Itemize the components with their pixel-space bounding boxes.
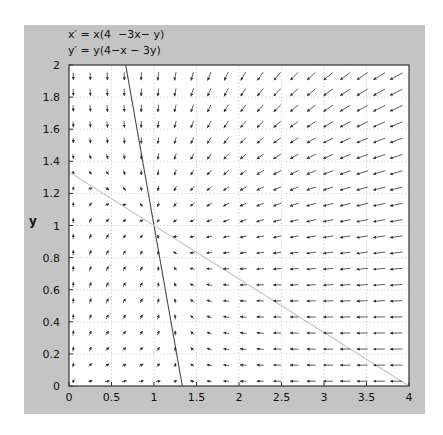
x-tick-label: 4: [406, 391, 413, 404]
y-tick-label: 1.4: [43, 155, 61, 168]
x-tick-label: 0: [66, 391, 73, 404]
y-tick-label: 0.6: [43, 284, 61, 297]
x-tick-label: 1: [151, 391, 158, 404]
direction-arrow: [107, 105, 108, 112]
direction-arrow: [158, 267, 159, 271]
y-tick-label: 0: [53, 380, 60, 393]
y-tick-label: 0.2: [43, 348, 61, 361]
x-tick-label: 3: [321, 391, 328, 404]
y-tick-label: 1.2: [43, 187, 61, 200]
direction-arrow: [73, 202, 74, 207]
direction-arrow: [257, 269, 264, 270]
direction-arrow: [90, 105, 91, 111]
y-tick-label: 0.4: [43, 316, 61, 329]
direction-field-plot: 00.511.522.533.54 00.20.40.60.811.21.41.…: [0, 0, 443, 435]
y-tick-label: 1: [53, 220, 60, 233]
x-tick-label: 1.5: [188, 391, 206, 404]
y-tick-label: 1.8: [43, 91, 61, 104]
direction-arrow: [390, 301, 402, 302]
direction-arrow: [373, 301, 385, 302]
y-tick-label: 0.8: [43, 252, 61, 265]
direction-arrow: [307, 285, 316, 286]
plot-area: [69, 65, 409, 386]
x-tick-label: 2.5: [273, 391, 291, 404]
direction-arrow: [122, 204, 126, 205]
y-tick-label: 1.6: [43, 123, 61, 136]
direction-arrow: [240, 365, 246, 366]
x-tick-label: 0.5: [103, 391, 121, 404]
direction-arrow: [73, 154, 74, 158]
x-tick-label: 3.5: [358, 391, 376, 404]
y-tick-label: 2: [53, 59, 60, 72]
direction-arrow: [124, 138, 125, 144]
x-tick-label: 2: [236, 391, 243, 404]
